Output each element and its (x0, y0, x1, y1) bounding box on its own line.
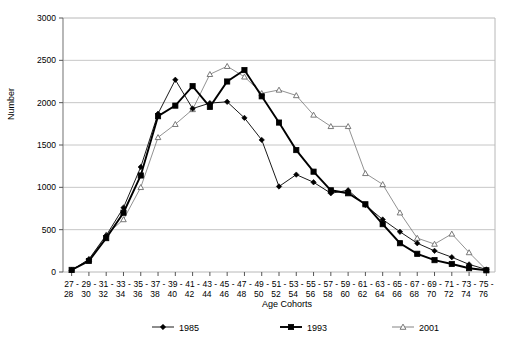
y-tick-label: 1500 (37, 140, 56, 150)
data-point-marker (225, 79, 230, 84)
x-tick-label: 34 (116, 289, 126, 299)
x-tick-label: 62 (358, 289, 368, 299)
x-tick-label: 50 (254, 289, 264, 299)
x-tick-label: 68 (410, 289, 420, 299)
data-point-marker (242, 74, 248, 79)
series-1993 (69, 67, 489, 272)
series-2001 (69, 63, 489, 272)
x-tick-label: 71 - (444, 279, 459, 289)
x-tick-label: 51 - (272, 279, 287, 289)
chart-container: Number Age Cohorts 050010001500200025003… (0, 0, 521, 345)
y-tick-label: 1000 (37, 182, 56, 192)
data-point-marker (224, 63, 230, 68)
data-point-marker (104, 236, 109, 241)
data-point-marker (449, 254, 454, 259)
data-point-marker (69, 267, 74, 272)
legend-item-undefined: 1993 (280, 323, 327, 333)
legend-label: 1985 (179, 323, 199, 333)
data-point-marker (173, 77, 178, 82)
x-tick-label: 39 - (168, 279, 183, 289)
data-point-marker (294, 147, 299, 152)
x-tick-label: 65 - (393, 279, 408, 289)
x-tick-label: 47 - (237, 279, 252, 289)
line-chart-plot: 05001000150020002500300027 -2829 -3031 -… (0, 0, 521, 345)
x-tick-label: 54 (289, 289, 299, 299)
data-point-marker (276, 120, 281, 125)
data-point-marker (160, 324, 165, 329)
data-point-marker (415, 251, 420, 256)
y-tick-label: 2500 (37, 55, 56, 65)
data-point-marker (484, 268, 489, 273)
data-point-marker (276, 87, 282, 92)
series-line (72, 66, 487, 270)
data-point-marker (288, 324, 293, 329)
x-tick-label: 73 - (462, 279, 477, 289)
data-point-marker (380, 182, 386, 187)
data-point-marker (466, 266, 471, 271)
x-tick-label: 74 (461, 289, 471, 299)
x-tick-label: 57 - (324, 279, 339, 289)
x-tick-label: 55 - (306, 279, 321, 289)
data-point-marker (363, 202, 368, 207)
data-point-marker (449, 261, 454, 266)
series-line (72, 80, 487, 271)
x-tick-label: 72 (444, 289, 454, 299)
x-tick-label: 27 - (64, 279, 79, 289)
legend-label: 1993 (307, 323, 327, 333)
x-tick-label: 69 - (427, 279, 442, 289)
x-tick-label: 61 - (358, 279, 373, 289)
x-tick-label: 66 (392, 289, 402, 299)
legend-item-undefined: 2001 (392, 323, 439, 333)
data-point-marker (155, 135, 161, 140)
x-tick-label: 49 - (254, 279, 269, 289)
data-point-marker (207, 72, 213, 77)
data-point-marker (397, 241, 402, 246)
x-tick-label: 44 (202, 289, 212, 299)
x-tick-label: 40 (168, 289, 178, 299)
x-tick-label: 53 - (289, 279, 304, 289)
x-tick-label: 48 (237, 289, 247, 299)
x-tick-label: 64 (375, 289, 385, 299)
data-point-marker (432, 248, 437, 253)
x-tick-label: 63 - (375, 279, 390, 289)
legend-item-undefined: 1985 (152, 323, 199, 333)
data-point-marker (294, 172, 299, 177)
x-tick-label: 35 - (133, 279, 148, 289)
data-point-marker (432, 258, 437, 263)
x-tick-label: 46 (219, 289, 229, 299)
data-point-marker (207, 104, 212, 109)
data-point-marker (259, 94, 264, 99)
x-tick-label: 56 (306, 289, 316, 299)
y-tick-label: 3000 (37, 13, 56, 23)
x-tick-label: 33 - (116, 279, 131, 289)
x-tick-label: 52 (271, 289, 281, 299)
series-1985 (69, 77, 489, 273)
legend-label: 2001 (419, 323, 439, 333)
x-tick-label: 76 (479, 289, 489, 299)
x-tick-label: 31 - (99, 279, 114, 289)
y-tick-label: 0 (51, 267, 56, 277)
x-tick-label: 36 (133, 289, 143, 299)
x-tick-label: 43 - (203, 279, 218, 289)
x-tick-label: 28 (64, 289, 74, 299)
data-point-marker (242, 67, 247, 72)
x-tick-label: 32 (98, 289, 108, 299)
x-tick-label: 37 - (151, 279, 166, 289)
data-point-marker (190, 84, 195, 89)
x-tick-label: 60 (340, 289, 350, 299)
data-point-marker (121, 217, 127, 222)
data-point-marker (155, 114, 160, 119)
x-tick-label: 58 (323, 289, 333, 299)
data-point-marker (276, 184, 281, 189)
data-point-marker (397, 210, 403, 215)
data-point-marker (363, 171, 369, 176)
x-tick-label: 30 (81, 289, 91, 299)
data-point-marker (414, 235, 420, 240)
data-point-marker (311, 169, 316, 174)
x-tick-label: 67 - (410, 279, 425, 289)
x-tick-label: 41 - (185, 279, 200, 289)
x-tick-label: 59 - (341, 279, 356, 289)
x-tick-label: 42 (185, 289, 195, 299)
y-tick-label: 500 (42, 225, 56, 235)
x-tick-label: 45 - (220, 279, 235, 289)
